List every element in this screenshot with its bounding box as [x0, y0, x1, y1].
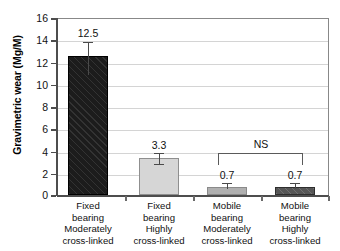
- x-tick-mark: [261, 196, 263, 201]
- y-tick-mark: [51, 152, 56, 154]
- category-line: cross-linked: [129, 235, 189, 247]
- category-line: Highly: [129, 223, 189, 235]
- category-line: Mobile: [265, 200, 325, 212]
- category-line: cross-linked: [58, 235, 118, 247]
- gravimetric-wear-bar-chart: Gravimetric wear (Mg/M) 16 14 12 10 8 6 …: [0, 0, 340, 251]
- category-line: bearing: [58, 212, 118, 224]
- category-line: Fixed: [58, 200, 118, 212]
- significance-label: NS: [225, 139, 297, 150]
- y-axis-line: [56, 18, 58, 196]
- bar-value-label: 3.3: [134, 140, 184, 151]
- y-tick-mark: [51, 40, 56, 42]
- category-line: Moderately: [197, 223, 257, 235]
- y-tick-label: 12: [8, 58, 48, 69]
- x-axis-category-label: Mobile bearing Highly cross-linked: [265, 200, 325, 246]
- error-bar-cap: [154, 164, 164, 165]
- error-bar-cap: [154, 153, 164, 154]
- bar-fixed-bearing-moderately-cross-linked: [68, 56, 108, 195]
- category-line: bearing: [197, 212, 257, 224]
- y-tick-label: 10: [8, 80, 48, 91]
- bar-value-label: 12.5: [63, 28, 113, 39]
- error-bar-stem: [159, 153, 160, 164]
- category-line: cross-linked: [197, 235, 257, 247]
- y-tick-label: 16: [8, 13, 48, 24]
- category-line: Mobile: [197, 200, 257, 212]
- category-line: Moderately: [58, 223, 118, 235]
- y-tick-mark: [51, 85, 56, 87]
- y-tick-label: 6: [8, 124, 48, 135]
- y-tick-label: 2: [8, 169, 48, 180]
- y-tick-label: 4: [8, 147, 48, 158]
- bar-value-label: 0.7: [202, 170, 252, 181]
- error-bar-cap: [222, 183, 232, 184]
- gridline: [57, 41, 328, 42]
- bar-value-label: 0.7: [270, 170, 320, 181]
- category-line: bearing: [129, 212, 189, 224]
- x-axis-category-label: Fixed bearing Highly cross-linked: [129, 200, 189, 246]
- y-tick-label: 8: [8, 102, 48, 113]
- y-tick-mark: [51, 195, 56, 197]
- y-tick-mark: [51, 129, 56, 131]
- y-tick-mark: [51, 18, 56, 20]
- y-tick-label: 0: [8, 190, 48, 201]
- x-tick-mark: [328, 196, 330, 201]
- error-bar-stem: [88, 42, 89, 75]
- error-bar-cap: [83, 42, 93, 43]
- y-axis-title: Gravimetric wear (Mg/M): [11, 5, 23, 185]
- y-tick-mark: [51, 107, 56, 109]
- x-tick-mark: [125, 196, 127, 201]
- y-tick-label: 14: [8, 35, 48, 46]
- category-line: Highly: [265, 223, 325, 235]
- category-line: cross-linked: [265, 235, 325, 247]
- category-line: bearing: [265, 212, 325, 224]
- x-tick-mark: [193, 196, 195, 201]
- x-axis-category-label: Mobile bearing Moderately cross-linked: [197, 200, 257, 246]
- significance-bracket: [218, 153, 303, 165]
- y-tick-mark: [51, 63, 56, 65]
- x-axis-category-label: Fixed bearing Moderately cross-linked: [58, 200, 118, 246]
- error-bar-cap: [290, 183, 300, 184]
- y-tick-mark: [51, 174, 56, 176]
- category-line: Fixed: [129, 200, 189, 212]
